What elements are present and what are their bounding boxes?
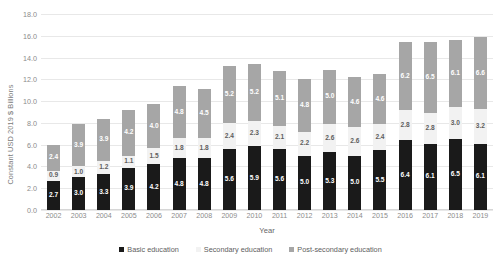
bar-value-label: 4.8	[175, 181, 184, 188]
bar-segment-post-secondary[interactable]: 3.9	[72, 124, 85, 166]
legend-item[interactable]: Post-secondary education	[289, 245, 381, 254]
bar-segment-basic[interactable]: 6.5	[449, 139, 462, 210]
bar-segment-secondary[interactable]: 1.0	[72, 166, 85, 177]
bar-segment-basic[interactable]: 3.9	[122, 168, 135, 210]
bar-segment-basic[interactable]: 3.3	[97, 174, 110, 210]
bar-stack[interactable]: 5.12.15.6	[273, 71, 286, 210]
bar-stack[interactable]: 3.91.23.3	[97, 119, 110, 210]
bar-group[interactable]: 4.51.84.8	[192, 14, 217, 210]
bar-stack[interactable]: 6.52.86.1	[424, 42, 437, 210]
bar-segment-post-secondary[interactable]: 6.5	[424, 42, 437, 113]
bar-segment-secondary[interactable]: 3.0	[449, 107, 462, 140]
bar-segment-post-secondary[interactable]: 5.0	[323, 70, 336, 124]
bar-segment-post-secondary[interactable]: 4.6	[348, 77, 361, 127]
bar-segment-post-secondary[interactable]: 4.0	[147, 104, 160, 148]
bar-stack[interactable]: 4.51.84.8	[198, 89, 211, 210]
bar-stack[interactable]: 6.63.26.1	[474, 37, 487, 210]
bar-stack[interactable]: 4.62.65.0	[348, 77, 361, 210]
bar-segment-post-secondary[interactable]: 6.6	[474, 37, 487, 109]
bar-value-label: 2.4	[49, 154, 58, 161]
bar-group[interactable]: 6.52.86.1	[418, 14, 443, 210]
bar-segment-secondary[interactable]: 2.3	[248, 121, 261, 146]
bar-stack[interactable]: 6.13.06.5	[449, 40, 462, 210]
bar-segment-post-secondary[interactable]: 5.2	[223, 66, 236, 123]
bar-segment-basic[interactable]: 6.1	[424, 144, 437, 210]
bar-segment-secondary[interactable]: 2.2	[298, 132, 311, 156]
bar-segment-post-secondary[interactable]: 2.4	[47, 145, 60, 171]
bar-segment-basic[interactable]: 5.0	[348, 156, 361, 210]
bar-value-label: 0.9	[49, 172, 58, 179]
bar-segment-secondary[interactable]: 2.8	[424, 113, 437, 143]
bar-segment-basic[interactable]: 5.5	[373, 150, 386, 210]
bar-stack[interactable]: 5.02.65.3	[323, 70, 336, 210]
bar-segment-post-secondary[interactable]: 4.8	[298, 79, 311, 131]
bar-group[interactable]: 5.02.65.3	[317, 14, 342, 210]
bar-segment-secondary[interactable]: 2.6	[323, 124, 336, 152]
bar-segment-post-secondary[interactable]: 3.9	[97, 119, 110, 161]
bar-stack[interactable]: 4.81.84.8	[173, 86, 186, 210]
bar-group[interactable]: 2.40.92.7	[41, 14, 66, 210]
bar-segment-post-secondary[interactable]: 4.8	[173, 86, 186, 138]
bar-segment-post-secondary[interactable]: 4.5	[198, 89, 211, 138]
bar-group[interactable]: 4.82.25.0	[292, 14, 317, 210]
bar-segment-basic[interactable]: 6.4	[399, 140, 412, 210]
bar-segment-secondary[interactable]: 2.4	[373, 124, 386, 150]
bar-value-label: 2.4	[225, 133, 234, 140]
bar-group[interactable]: 6.22.86.4	[393, 14, 418, 210]
bar-group[interactable]: 4.62.45.5	[367, 14, 392, 210]
legend-item[interactable]: Basic education	[119, 245, 179, 254]
bar-segment-basic[interactable]: 5.6	[223, 149, 236, 210]
bar-stack[interactable]: 5.22.45.6	[223, 66, 236, 210]
bar-segment-basic[interactable]: 3.0	[72, 177, 85, 210]
bar-group[interactable]: 6.13.06.5	[443, 14, 468, 210]
bar-stack[interactable]: 4.62.45.5	[373, 74, 386, 210]
bar-stack[interactable]: 4.82.25.0	[298, 79, 311, 210]
bar-segment-basic[interactable]: 4.2	[147, 164, 160, 210]
bar-stack[interactable]: 4.21.13.9	[122, 110, 135, 210]
bar-segment-secondary[interactable]: 2.4	[223, 123, 236, 149]
bar-segment-basic[interactable]: 4.8	[198, 158, 211, 210]
bar-segment-secondary[interactable]: 3.2	[474, 109, 487, 144]
legend-item[interactable]: Secondary education	[196, 245, 273, 254]
bar-group[interactable]: 5.12.15.6	[267, 14, 292, 210]
bar-stack[interactable]: 6.22.86.4	[399, 42, 412, 210]
bar-group[interactable]: 6.63.26.1	[468, 14, 493, 210]
bar-segment-post-secondary[interactable]: 5.2	[248, 64, 261, 121]
bar-segment-secondary[interactable]: 0.9	[47, 171, 60, 181]
bar-segment-secondary[interactable]: 2.8	[399, 110, 412, 140]
bar-segment-secondary[interactable]: 2.6	[348, 127, 361, 155]
bar-segment-basic[interactable]: 5.3	[323, 152, 336, 210]
bar-group[interactable]: 4.21.13.9	[116, 14, 141, 210]
bar-group[interactable]: 4.81.84.8	[167, 14, 192, 210]
bar-value-label: 5.0	[350, 179, 359, 186]
bar-segment-secondary[interactable]: 1.2	[97, 161, 110, 174]
bar-segment-basic[interactable]: 4.8	[173, 158, 186, 210]
bar-value-label: 3.9	[99, 136, 108, 143]
bar-group[interactable]: 5.22.45.6	[217, 14, 242, 210]
bar-segment-post-secondary[interactable]: 6.2	[399, 42, 412, 110]
bar-group[interactable]: 3.91.23.3	[91, 14, 116, 210]
x-axis-tick-label: 2004	[91, 212, 116, 220]
bar-group[interactable]: 4.01.54.2	[141, 14, 166, 210]
bar-stack[interactable]: 5.22.35.9	[248, 64, 261, 210]
bar-segment-basic[interactable]: 2.7	[47, 181, 60, 210]
bar-segment-secondary[interactable]: 1.1	[122, 156, 135, 168]
bar-segment-post-secondary[interactable]: 6.1	[449, 40, 462, 106]
bar-segment-basic[interactable]: 5.6	[273, 149, 286, 210]
bar-stack[interactable]: 3.91.03.0	[72, 124, 85, 210]
bar-segment-basic[interactable]: 5.0	[298, 156, 311, 210]
bar-segment-secondary[interactable]: 1.8	[173, 138, 186, 158]
bar-segment-post-secondary[interactable]: 5.1	[273, 71, 286, 127]
bar-segment-post-secondary[interactable]: 4.6	[373, 74, 386, 124]
bar-segment-secondary[interactable]: 2.1	[273, 126, 286, 149]
bar-segment-basic[interactable]: 5.9	[248, 146, 261, 210]
bar-stack[interactable]: 2.40.92.7	[47, 145, 60, 210]
bar-segment-basic[interactable]: 6.1	[474, 144, 487, 210]
bar-group[interactable]: 4.62.65.0	[342, 14, 367, 210]
bar-group[interactable]: 5.22.35.9	[242, 14, 267, 210]
bar-stack[interactable]: 4.01.54.2	[147, 104, 160, 210]
bar-segment-secondary[interactable]: 1.8	[198, 138, 211, 158]
bar-segment-post-secondary[interactable]: 4.2	[122, 110, 135, 156]
bar-group[interactable]: 3.91.03.0	[66, 14, 91, 210]
bar-segment-secondary[interactable]: 1.5	[147, 148, 160, 164]
